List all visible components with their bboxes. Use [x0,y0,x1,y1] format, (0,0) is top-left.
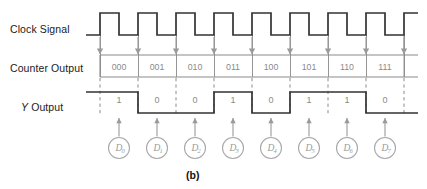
data-input-circles: D0D1D2D3D4D5D6D7 [109,138,396,159]
data-input-arrows [119,118,385,137]
data-input-subscript: 7 [388,147,392,154]
y-output-cell: 1 [230,95,235,105]
counter-output-cell: 001 [150,62,165,72]
counter-output-cell: 101 [302,62,317,72]
counter-output-cell: 100 [264,62,279,72]
counter-output-bus-box [100,55,418,77]
y-output-waveform [86,92,418,113]
data-input-subscript: 5 [312,147,316,154]
timing-waveforms: 000001010011100101110111 10010110 D0D1D2… [0,0,427,189]
data-input-subscript: 1 [160,147,163,154]
timing-diagram-figure: Clock Signal Counter Output Y Output 000… [0,0,427,189]
clock-waveform [86,13,418,35]
counter-output-cell: 111 [378,62,391,72]
figure-caption: (b) [186,169,199,181]
counter-output-cell: 110 [340,62,354,72]
y-output-cell: 0 [382,95,387,105]
clock-edge-arrows [100,37,404,54]
y-output-cell: 1 [344,95,349,105]
y-output-cell: 1 [306,95,311,105]
y-output-cell: 0 [268,95,273,105]
data-input-subscript: 6 [350,147,354,154]
data-input-subscript: 2 [198,147,202,154]
y-output-cell: 0 [192,95,197,105]
counter-output-cell: 000 [112,62,127,72]
counter-output-cell: 011 [226,62,240,72]
y-output-cell: 1 [116,95,121,105]
y-output-cell: 0 [154,95,159,105]
data-input-subscript: 0 [122,147,126,154]
counter-output-cell: 010 [188,62,203,72]
data-input-subscript: 3 [235,147,240,154]
data-input-subscript: 4 [274,147,278,154]
